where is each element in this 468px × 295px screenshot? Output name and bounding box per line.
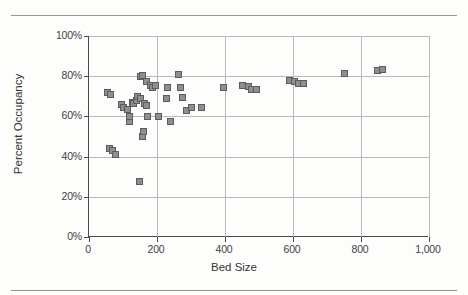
data-point (198, 104, 205, 111)
y-axis-tick (84, 157, 89, 158)
y-tick-label: 60% (62, 109, 82, 121)
x-tick-label: 600 (284, 243, 301, 255)
gridline-vertical (157, 36, 158, 237)
data-point (112, 151, 119, 158)
y-axis-tick (84, 197, 89, 198)
plot-area (88, 36, 428, 237)
data-point (179, 94, 186, 101)
gridline-horizontal (89, 197, 429, 198)
x-tick-label: 800 (352, 243, 369, 255)
gridline-horizontal (89, 157, 429, 158)
y-tick-label: 80% (62, 69, 82, 81)
scatter-chart: Percent Occupancy 0%20%40%60%80%100% 020… (0, 0, 468, 295)
gridline-vertical (293, 36, 294, 237)
y-axis-tick (84, 76, 89, 77)
data-point (124, 106, 131, 113)
data-point (107, 91, 114, 98)
data-point (177, 84, 184, 91)
gridline-horizontal (89, 36, 429, 37)
data-point (175, 71, 182, 78)
x-axis-tick (429, 237, 430, 242)
data-point (253, 86, 260, 93)
x-axis-title: Bed Size (0, 261, 468, 273)
x-axis-tick (361, 237, 362, 242)
data-point (163, 95, 170, 102)
gridline-vertical (429, 36, 430, 237)
data-point (126, 113, 133, 120)
data-point (136, 178, 143, 185)
x-axis-tick (225, 237, 226, 242)
y-tick-labels: 0%20%40%60%80%100% (26, 36, 82, 237)
x-tick-labels: 02004006008001,000 (88, 243, 428, 259)
x-axis-tick (293, 237, 294, 242)
data-point (379, 66, 386, 73)
y-tick-label: 20% (62, 190, 82, 202)
data-point (341, 70, 348, 77)
x-axis-tick (157, 237, 158, 242)
y-tick-label: 100% (56, 29, 82, 41)
data-point (220, 84, 227, 91)
data-point (155, 113, 162, 120)
y-tick-label: 40% (62, 150, 82, 162)
data-point (167, 118, 174, 125)
y-axis-title: Percent Occupancy (12, 44, 24, 204)
data-point (152, 82, 159, 89)
data-point (143, 102, 150, 109)
data-point (144, 113, 151, 120)
gridline-horizontal (89, 116, 429, 117)
chart-page: Percent Occupancy 0%20%40%60%80%100% 020… (0, 0, 468, 295)
data-point (188, 104, 195, 111)
data-point (140, 128, 147, 135)
data-point (164, 84, 171, 91)
x-tick-label: 400 (216, 243, 233, 255)
x-axis-tick (89, 237, 90, 242)
y-axis-tick (84, 116, 89, 117)
gridline-vertical (225, 36, 226, 237)
x-tick-label: 1,000 (415, 243, 440, 255)
gridline-vertical (361, 36, 362, 237)
y-axis-tick (84, 36, 89, 37)
data-point (300, 80, 307, 87)
y-tick-label: 0% (67, 230, 82, 242)
x-tick-label: 200 (148, 243, 165, 255)
x-tick-label: 0 (85, 243, 91, 255)
